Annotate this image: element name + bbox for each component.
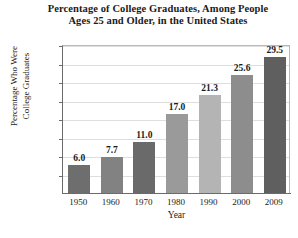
x-axis-title: Year — [62, 210, 291, 221]
bar-value-label: 25.6 — [234, 63, 251, 73]
bar: 17.0 — [166, 114, 188, 193]
x-tick-label: 2009 — [254, 197, 294, 207]
gridline — [63, 65, 289, 66]
y-tick-mark — [59, 157, 63, 158]
chart-title: Percentage of College Graduates, Among P… — [22, 3, 294, 27]
y-tick-mark — [59, 120, 63, 121]
y-tick-mark — [59, 46, 63, 47]
bar: 29.5 — [264, 57, 286, 193]
plot-area: 6.07.711.017.021.325.629.5 — [62, 45, 290, 193]
y-axis-title-line-1: Percentage Who Were — [8, 20, 20, 152]
bar-value-label: 21.3 — [201, 83, 218, 93]
x-axis-line — [62, 193, 291, 194]
chart-title-line-2: Ages 25 and Older, in the United States — [22, 15, 294, 27]
bar: 25.6 — [231, 75, 253, 193]
bar-value-label: 29.5 — [266, 45, 283, 55]
y-tick-mark — [59, 139, 63, 140]
bar-value-label: 7.7 — [106, 145, 118, 155]
y-tick-mark — [59, 83, 63, 84]
bar-value-label: 11.0 — [136, 130, 152, 140]
bar: 6.0 — [68, 165, 90, 193]
bar-value-label: 17.0 — [169, 102, 186, 112]
y-axis-title-line-2: College Graduates — [20, 20, 32, 152]
bar-chart-figure: Percentage of College Graduates, Among P… — [0, 0, 298, 238]
chart-title-line-1: Percentage of College Graduates, Among P… — [22, 3, 294, 15]
y-tick-mark — [59, 65, 63, 66]
y-tick-mark — [59, 102, 63, 103]
y-tick-mark — [59, 176, 63, 177]
bar: 21.3 — [199, 95, 221, 194]
bar: 11.0 — [133, 142, 155, 193]
gridline — [63, 83, 289, 84]
y-axis-title: Percentage Who Were College Graduates — [8, 20, 34, 152]
bar: 7.7 — [101, 157, 123, 193]
gridline — [63, 46, 289, 47]
bar-value-label: 6.0 — [73, 153, 85, 163]
